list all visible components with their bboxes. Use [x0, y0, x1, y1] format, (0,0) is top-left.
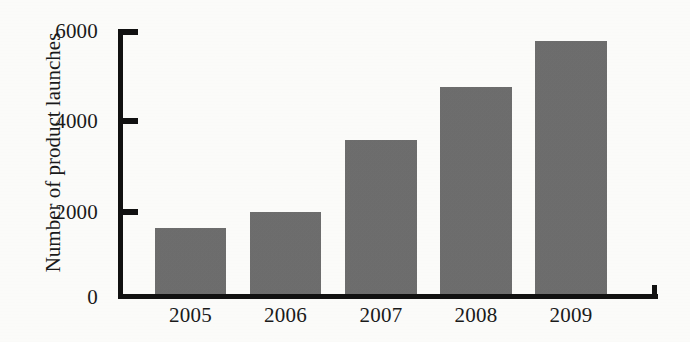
y-tick-label-6000: 6000: [28, 19, 98, 44]
bar-2007: [345, 140, 417, 297]
bar-2008: [440, 87, 512, 297]
y-tick-label-0: 0: [28, 285, 98, 310]
x-axis-line: [118, 294, 658, 299]
x-tick-label-2008: 2008: [440, 303, 512, 328]
bar-2005: [155, 228, 226, 297]
x-tick-label-2006: 2006: [250, 303, 321, 328]
bar-2009: [535, 41, 607, 297]
y-tick-mark-4000: [121, 118, 138, 124]
x-tick-label-2009: 2009: [535, 303, 607, 328]
y-tick-label-2000: 2000: [28, 200, 98, 225]
plot-area: Number of product launches 6000 4000 200…: [0, 0, 690, 342]
y-tick-mark-6000: [121, 29, 138, 35]
x-axis-end-tick: [652, 285, 657, 297]
y-axis-line: [118, 29, 123, 298]
bar-chart-figure: Number of product launches 6000 4000 200…: [0, 0, 690, 342]
y-tick-label-4000: 4000: [28, 109, 98, 134]
y-tick-mark-2000: [121, 209, 138, 215]
bar-2006: [250, 212, 321, 297]
x-tick-label-2005: 2005: [155, 303, 226, 328]
y-axis-title: Number of product launches: [41, 8, 66, 298]
x-tick-label-2007: 2007: [345, 303, 417, 328]
